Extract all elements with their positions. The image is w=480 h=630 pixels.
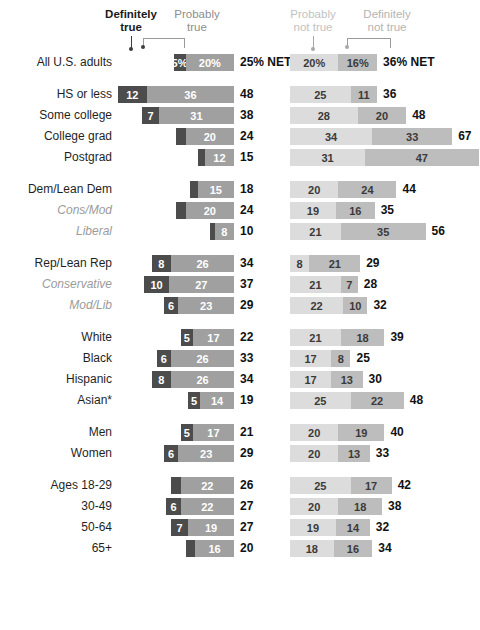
net-not-true-label: 48 [410, 393, 423, 407]
net-not-true-label: 42 [398, 478, 411, 492]
chart-row: Black6263317825 [0, 348, 480, 369]
right-bar-track: 1914 [290, 519, 370, 536]
segment-definitely-true: 7 [171, 519, 188, 536]
leader-elbow-definitely-not-true [347, 38, 391, 48]
right-stacked-bar: 20%16% [290, 54, 377, 71]
segment-definitely-not-true: 13 [338, 445, 369, 462]
segment-probably-not-true: 21 [290, 223, 341, 240]
right-stacked-bar: 1713 [290, 371, 363, 388]
left-stacked-bar: 622 [166, 498, 234, 515]
segment-probably-not-true: 8 [290, 255, 309, 272]
segment-definitely-not-true: 16 [336, 202, 375, 219]
right-bar-track: 178 [290, 350, 351, 367]
right-bar-track: 2210 [290, 297, 367, 314]
left-stacked-bar: 514 [188, 392, 234, 409]
segment-probably-true: 17 [193, 424, 234, 441]
right-bar-track: 821 [290, 255, 360, 272]
segment-definitely-true: 8 [152, 371, 171, 388]
left-bar-track: 20 [0, 202, 234, 219]
net-not-true-label: 44 [402, 182, 415, 196]
legend-probably-not-true-line2: not true [274, 21, 352, 34]
legend-probably-not-true-line1: Probably [274, 8, 352, 21]
left-bar-track: 719 [0, 519, 234, 536]
left-stacked-bar: 826 [152, 255, 234, 272]
segment-probably-not-true: 25 [290, 86, 351, 103]
segment-probably-not-true: 21 [290, 276, 341, 293]
right-bar-track: 2019 [290, 424, 384, 441]
right-bar-track: 1916 [290, 202, 375, 219]
segment-probably-true: 17 [193, 329, 234, 346]
left-bar-track: 20 [0, 128, 234, 145]
segment-probably-true: 12 [205, 149, 234, 166]
right-bar-track: 3433 [290, 128, 452, 145]
right-stacked-bar: 2019 [290, 424, 384, 441]
chart-row: White51722211839 [0, 327, 480, 348]
segment-definitely-not-true: 16% [338, 54, 377, 71]
net-true-label: 29 [240, 298, 253, 312]
right-bar-track: 1713 [290, 371, 363, 388]
segment-definitely-true: 6 [164, 445, 179, 462]
right-stacked-bar: 1816 [290, 540, 372, 557]
segment-definitely-not-true: 21 [309, 255, 360, 272]
segment-definitely-not-true: 17 [351, 477, 392, 494]
left-stacked-bar: 517 [181, 424, 234, 441]
net-true-label: 34 [240, 256, 253, 270]
segment-probably-true: 26 [171, 255, 234, 272]
left-bar-track: 626 [0, 350, 234, 367]
net-not-true-label: 32 [376, 520, 389, 534]
right-bar-track: 2018 [290, 498, 382, 515]
segment-probably-true: 20 [186, 128, 234, 145]
right-stacked-bar: 2013 [290, 445, 370, 462]
chart-row: 50-6471927191432 [0, 517, 480, 538]
right-stacked-bar: 3147 [290, 149, 479, 166]
segment-probably-not-true: 20% [290, 54, 338, 71]
left-bar-track: 517 [0, 424, 234, 441]
segment-definitely-true: 5 [181, 329, 193, 346]
legend-definitely-not-true-line1: Definitely [348, 8, 426, 21]
segment-definitely-not-true: 35 [341, 223, 426, 240]
right-bar-track: 217 [290, 276, 358, 293]
segment-probably-not-true: 25 [290, 392, 351, 409]
left-bar-track: 623 [0, 445, 234, 462]
segment-probably-true: 19 [188, 519, 234, 536]
segment-probably-not-true: 22 [290, 297, 343, 314]
segment-probably-true: 36 [147, 86, 234, 103]
segment-definitely-true [190, 181, 197, 198]
segment-definitely-true: 6 [164, 297, 179, 314]
leader-dot-definitely-not-true [345, 45, 349, 49]
right-stacked-bar: 1914 [290, 519, 370, 536]
net-not-true-label: 25 [357, 351, 370, 365]
leader-elbow-probably-true [143, 38, 185, 48]
right-stacked-bar: 178 [290, 350, 351, 367]
segment-definitely-not-true: 33 [372, 128, 452, 145]
segment-probably-not-true: 18 [290, 540, 334, 557]
net-not-true-label: 33 [376, 446, 389, 460]
left-bar-track: 514 [0, 392, 234, 409]
segment-probably-true: 20% [186, 54, 234, 71]
left-stacked-bar: 15 [190, 181, 234, 198]
segment-probably-not-true: 17 [290, 350, 331, 367]
net-true-label: 48 [240, 87, 253, 101]
right-stacked-bar: 2135 [290, 223, 426, 240]
segment-definitely-not-true: 7 [341, 276, 358, 293]
left-stacked-bar: 623 [164, 445, 234, 462]
chart-row: Asian*51419252248 [0, 390, 480, 411]
net-true-label: 33 [240, 351, 253, 365]
segment-definitely-not-true: 18 [341, 329, 385, 346]
left-bar-track: 731 [0, 107, 234, 124]
segment-definitely-not-true: 18 [338, 498, 382, 515]
segment-definitely-not-true: 10 [343, 297, 367, 314]
net-not-true-label: 39 [390, 330, 403, 344]
segment-probably-true: 27 [169, 276, 234, 293]
legend-probably-true: Probably true [158, 8, 236, 34]
left-bar-track: 5%20% [0, 54, 234, 71]
right-bar-track: 20%16% [290, 54, 377, 71]
right-bar-track: 2522 [290, 392, 404, 409]
segment-definitely-true [176, 202, 186, 219]
left-stacked-bar: 16 [186, 540, 234, 557]
leader-dot-definitely-true [129, 47, 133, 51]
net-true-label: 21 [240, 425, 253, 439]
chart-row: Dem/Lean Dem1518202444 [0, 179, 480, 200]
segment-probably-true: 20 [186, 202, 234, 219]
segment-definitely-not-true: 20 [358, 107, 406, 124]
